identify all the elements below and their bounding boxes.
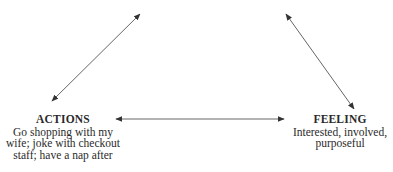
node-actions-title: ACTIONS <box>3 114 123 126</box>
arrow-feeling-top <box>286 14 354 109</box>
arrow-actions-top <box>52 14 140 101</box>
node-actions: ACTIONS Go shopping with my wife; joke w… <box>3 114 123 161</box>
node-feeling-line: purposeful <box>282 138 393 150</box>
node-feeling: FEELING Interested, involved, purposeful <box>282 114 393 150</box>
node-feeling-title: FEELING <box>282 114 393 126</box>
node-actions-line: staff; have a nap after <box>3 150 123 162</box>
